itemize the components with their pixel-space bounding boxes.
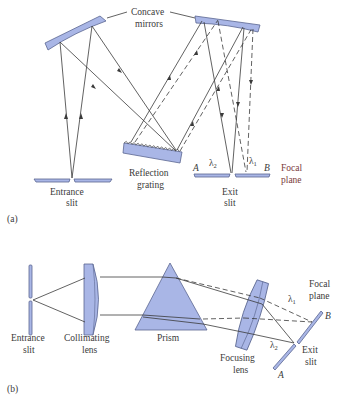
b-lambda2-label: λ2 (270, 340, 278, 351)
exit-label-line1: Exit (222, 187, 238, 197)
entrance-label-line1: Entrance (50, 187, 84, 197)
entrance-slit-upper-jaw (29, 265, 32, 298)
reflection-grating (123, 141, 182, 163)
panel-a: Concave mirrors Reflection grating Entra… (7, 7, 302, 225)
b-entrance-label-line1: Entrance (11, 333, 45, 343)
collimating-label-line1: Collimating (64, 333, 110, 343)
point-a-label: A (192, 163, 199, 173)
focusing-lens (233, 279, 271, 351)
panel-b-label: (b) (7, 384, 18, 395)
panel-b: Entrance slit Collimating lens Prism Foc… (7, 263, 331, 395)
b-point-b-label: B (325, 311, 331, 321)
panel-a-label: (a) (7, 214, 18, 225)
lambda1-label: λ1 (249, 156, 257, 167)
b-focal-label-line1: Focal (309, 279, 330, 289)
b-lambda1-label: λ1 (288, 294, 296, 305)
lambda2-label: λ2 (209, 158, 217, 169)
prism-label: Prism (157, 333, 180, 343)
focusing-label-line1: Focusing (220, 353, 255, 363)
exit-slit-left-jaw (194, 174, 230, 177)
mirror-leader-right (170, 12, 195, 18)
grating-label-line2: grating (137, 180, 164, 190)
exit-slit-right-jaw (235, 174, 270, 177)
mirrors-label-line2: mirrors (135, 19, 163, 29)
focal-label-line2: plane (281, 175, 302, 185)
spectrometer-diagram: Concave mirrors Reflection grating Entra… (0, 0, 339, 407)
mirrors-label-line1: Concave (131, 7, 164, 17)
entrance-slit-left-jaw (34, 179, 70, 182)
exit-label-line2: slit (224, 198, 236, 208)
exit-slit-upper-jaw (297, 311, 323, 344)
entrance-slit-right-jaw (74, 179, 112, 182)
focal-label-line1: Focal (281, 163, 302, 173)
point-b-label: B (264, 163, 270, 173)
focusing-label-line2: lens (233, 365, 249, 375)
mirror-leader-left (107, 12, 127, 18)
b-entrance-label-line2: slit (23, 345, 35, 355)
entrance-slit-lower-jaw (29, 301, 32, 335)
b-point-a-label: A (277, 370, 284, 380)
collimating-lens (84, 264, 99, 335)
b-focal-label-line2: plane (309, 291, 330, 301)
b-exit-label-line2: slit (305, 357, 317, 367)
entrance-label-line2: slit (66, 198, 78, 208)
collimating-label-line2: lens (82, 345, 98, 355)
grating-label-line1: Reflection (129, 168, 169, 178)
b-exit-label-line1: Exit (302, 345, 318, 355)
